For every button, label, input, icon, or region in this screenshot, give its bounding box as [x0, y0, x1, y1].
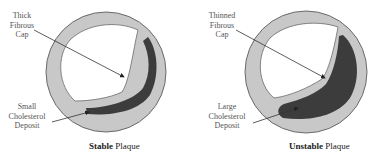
caption-rest: Plaque: [113, 141, 140, 151]
unstable-artery: [236, 11, 367, 133]
label-line: Small: [4, 102, 50, 112]
stable-artery: [34, 12, 166, 132]
label-line: Cholesterol: [4, 112, 50, 122]
small-cholesterol-deposit-label: Small Cholesterol Deposit: [4, 102, 50, 131]
large-cholesterol-deposit-label: Large Cholesterol Deposit: [204, 102, 250, 131]
caption-bold: Stable: [89, 141, 113, 151]
caption-bold: Unstable: [289, 141, 323, 151]
label-line: Deposit: [4, 121, 50, 131]
thick-fibrous-cap-label: Thick Fibrous Cap: [2, 11, 42, 40]
label-line: Large: [204, 102, 250, 112]
label-line: Cap: [199, 30, 245, 40]
unstable-plaque-caption: Unstable Plaque: [289, 141, 350, 151]
plaque-diagram: [0, 0, 379, 162]
label-line: Fibrous: [199, 21, 245, 31]
label-line: Deposit: [204, 121, 250, 131]
label-line: Fibrous: [2, 21, 42, 31]
thinned-fibrous-cap-label: Thinned Fibrous Cap: [199, 11, 245, 40]
label-line: Thinned: [199, 11, 245, 21]
label-line: Cap: [2, 30, 42, 40]
label-line: Cholesterol: [204, 112, 250, 122]
label-line: Thick: [2, 11, 42, 21]
caption-rest: Plaque: [323, 141, 350, 151]
stable-plaque-caption: Stable Plaque: [89, 141, 140, 151]
